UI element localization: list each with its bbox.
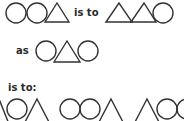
is-to-colon-label: is to: [8,83,37,93]
triangle-shape [131,3,156,22]
circle-shape [153,3,173,23]
is-to-label: is to [74,8,99,18]
circle-shape [60,99,80,119]
row2-figure [36,41,98,62]
circle-shape [7,99,27,119]
row3-option-1[interactable] [0,99,50,121]
triangle-shape [24,99,50,121]
circle-shape [6,3,26,23]
circle-shape [157,99,177,119]
analogy-figures [0,0,184,121]
triangle-shape [45,3,69,22]
row3-option-3[interactable] [134,99,184,121]
triangle-shape [54,41,80,62]
triangle-shape [106,3,132,22]
circle-shape [27,3,47,23]
row3-option-2[interactable] [60,99,124,121]
as-label: as [16,46,29,56]
circle-shape [80,99,100,119]
row1-left-figure [6,3,69,23]
circle-shape [177,99,184,119]
circle-shape [36,41,56,61]
triangle-shape [134,99,160,121]
circle-shape [78,41,98,61]
triangle-shape [98,99,124,121]
row1-right-figure [106,3,173,23]
